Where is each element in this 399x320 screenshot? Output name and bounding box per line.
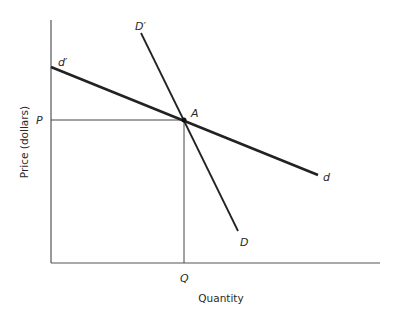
- label-D: D: [240, 236, 248, 249]
- label-D-prime: D′: [135, 20, 146, 33]
- label-P: P: [36, 114, 43, 127]
- demand-curve-D: [141, 33, 238, 231]
- label-Q: Q: [180, 272, 189, 285]
- point-a-marker: [182, 118, 187, 123]
- y-axis-label: Price (dollars): [18, 106, 30, 178]
- label-d: d: [323, 171, 331, 184]
- label-A: A: [190, 107, 199, 120]
- label-d-prime: d′: [58, 56, 68, 69]
- x-axis-label: Quantity: [198, 292, 243, 304]
- demand-diagram: D′ d′ P A d D Q Quantity Price (dollars): [0, 0, 399, 320]
